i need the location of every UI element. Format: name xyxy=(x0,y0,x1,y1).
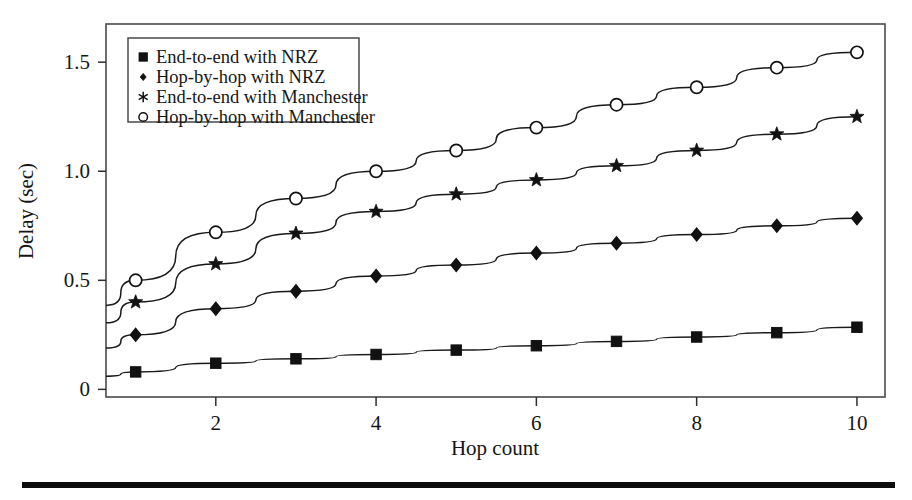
data-point-marker xyxy=(450,144,462,156)
data-point-marker xyxy=(611,336,621,346)
x-tick-label: 8 xyxy=(691,411,702,435)
legend-marker-filled-square-icon xyxy=(139,53,147,61)
data-point-marker xyxy=(852,322,862,332)
legend-item-2: Hop-by-hop with NRZ xyxy=(140,67,325,87)
data-point-marker xyxy=(130,274,142,286)
data-point-marker xyxy=(290,192,302,204)
data-point-marker xyxy=(371,349,381,359)
data-point-marker xyxy=(211,358,221,368)
legend-item-3: End-to-end with Manchester xyxy=(139,87,368,107)
data-point-marker xyxy=(451,345,461,355)
page-bottom-rule xyxy=(22,482,895,488)
x-tick-label: 6 xyxy=(531,411,542,435)
data-point-marker xyxy=(691,332,701,342)
data-point-marker xyxy=(130,367,140,377)
legend-item-4: Hop-by-hop with Manchester xyxy=(139,107,375,127)
y-tick-label: 1.0 xyxy=(64,159,90,183)
data-point-marker xyxy=(691,81,703,93)
data-point-marker xyxy=(530,122,542,134)
data-point-marker xyxy=(291,354,301,364)
y-tick-label: 1.5 xyxy=(64,50,90,74)
y-axis-tick-labels: 00.51.01.5 xyxy=(64,50,90,401)
x-axis-ticks xyxy=(216,397,857,406)
legend-marker-open-circle-icon xyxy=(139,113,148,122)
data-point-marker xyxy=(210,226,222,238)
legend-label: End-to-end with NRZ xyxy=(156,47,318,67)
legend-label: End-to-end with Manchester xyxy=(156,87,368,107)
data-point-marker xyxy=(772,327,782,337)
data-point-marker xyxy=(531,341,541,351)
x-tick-label: 10 xyxy=(846,411,867,435)
delay-vs-hop-count-chart: 00.51.01.5 246810 Hop count Delay (sec) … xyxy=(0,0,912,500)
x-axis-title: Hop count xyxy=(451,436,539,460)
x-tick-label: 2 xyxy=(211,411,222,435)
chart-legend: End-to-end with NRZHop-by-hop with NRZEn… xyxy=(128,38,375,127)
y-tick-label: 0 xyxy=(80,377,91,401)
data-point-marker xyxy=(370,165,382,177)
legend-label: Hop-by-hop with Manchester xyxy=(156,107,375,127)
y-tick-label: 0.5 xyxy=(64,268,90,292)
x-axis-tick-labels: 246810 xyxy=(211,411,868,435)
legend-item-1: End-to-end with NRZ xyxy=(139,47,318,67)
data-point-marker xyxy=(851,46,863,58)
figure-container: 00.51.01.5 246810 Hop count Delay (sec) … xyxy=(0,0,912,500)
data-point-marker xyxy=(771,62,783,74)
data-point-marker xyxy=(610,99,622,111)
legend-label: Hop-by-hop with NRZ xyxy=(156,67,326,87)
x-tick-label: 4 xyxy=(371,411,382,435)
y-axis-title: Delay (sec) xyxy=(14,163,38,259)
y-axis-ticks xyxy=(98,62,106,389)
